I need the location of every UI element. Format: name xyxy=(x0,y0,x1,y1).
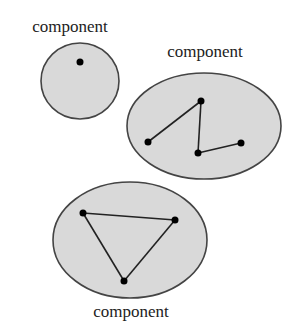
node xyxy=(121,278,128,285)
node xyxy=(238,140,245,147)
component-1: component xyxy=(32,17,119,119)
component-3: component xyxy=(53,182,207,321)
component-3-label: component xyxy=(93,302,169,321)
node xyxy=(172,217,179,224)
component-3-region xyxy=(53,182,207,298)
node xyxy=(195,150,202,157)
component-1-region xyxy=(41,43,119,119)
node xyxy=(77,59,84,66)
node xyxy=(198,98,205,105)
node xyxy=(80,210,87,217)
component-2-region xyxy=(127,73,281,179)
component-1-label: component xyxy=(32,17,108,36)
component-2-label: component xyxy=(167,42,243,61)
graph-components-diagram: component component component xyxy=(0,0,302,330)
component-2: component xyxy=(127,42,281,179)
node xyxy=(145,139,152,146)
